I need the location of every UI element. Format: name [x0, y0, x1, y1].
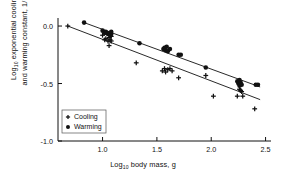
y-axis-title: Log10 exponential cooling and warming co… [9, 0, 39, 113]
marker-plus [240, 94, 245, 99]
legend-label-cooling: Cooling [74, 113, 98, 120]
marker-plus [211, 94, 216, 99]
marker-circle [239, 82, 244, 87]
data-points [65, 20, 260, 111]
marker-plus [134, 60, 139, 65]
marker-circle [168, 47, 173, 52]
x-tick-label: 1.0 [90, 145, 116, 154]
y-axis-title-line2: and warming constant, 1/min [20, 0, 31, 113]
marker-plus [176, 75, 181, 80]
marker-circle [66, 125, 70, 129]
x-axis-title: Log10 body mass, g [0, 160, 286, 169]
marker-circle [109, 30, 114, 35]
legend-label-warming: Warming [74, 123, 102, 130]
y-tick-label: -0.5 [27, 80, 53, 89]
marker-circle [204, 65, 209, 70]
x-tick-label: 2.0 [198, 145, 224, 154]
x-tick-label: 1.5 [144, 145, 170, 154]
marker-circle [179, 53, 184, 58]
marker-circle [82, 20, 87, 25]
y-tick-label: 0.0 [27, 22, 53, 31]
marker-plus [252, 106, 257, 111]
series-cooling [65, 24, 257, 112]
marker-plus [203, 73, 208, 78]
marker-plus [65, 24, 70, 29]
marker-circle [256, 82, 261, 87]
marker-plus [235, 94, 240, 99]
y-tick-label: -1.0 [27, 137, 53, 146]
chart-figure: Log10 exponential cooling and warming co… [0, 0, 286, 184]
regression-line [68, 26, 260, 100]
x-tick-label: 2.5 [253, 145, 279, 154]
regression-lines [68, 23, 260, 100]
y-axis-title-line1: Log10 exponential cooling [9, 0, 20, 113]
marker-circle [137, 41, 142, 46]
marker-plus [107, 43, 112, 48]
